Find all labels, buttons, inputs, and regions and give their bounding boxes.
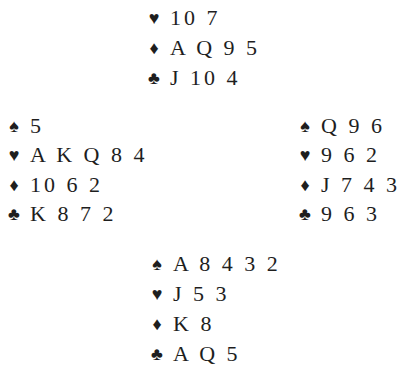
east-clubs-row: ♣ 9 6 3 — [295, 200, 400, 230]
south-diamonds-cards: K 8 — [173, 309, 214, 339]
spade-icon: ♠ — [295, 111, 315, 141]
heart-icon: ♥ — [144, 3, 164, 33]
west-hearts-row: ♥ A K Q 8 4 — [4, 141, 147, 171]
south-hearts-row: ♥ J 5 3 — [147, 279, 281, 309]
west-hand: ♠ 5 ♥ A K Q 8 4 ♦ 10 6 2 ♣ K 8 7 2 — [4, 111, 147, 229]
north-hand: ♥ 10 7 ♦ A Q 9 5 ♣ J 10 4 — [144, 3, 260, 93]
east-diamonds-cards: J 7 4 3 — [321, 170, 400, 200]
south-hand: ♠ A 8 4 3 2 ♥ J 5 3 ♦ K 8 ♣ A Q 5 — [147, 249, 281, 369]
east-hand: ♠ Q 9 6 ♥ 9 6 2 ♦ J 7 4 3 ♣ 9 6 3 — [295, 111, 400, 229]
south-spades-cards: A 8 4 3 2 — [173, 249, 281, 279]
south-hearts-cards: J 5 3 — [173, 279, 230, 309]
east-diamonds-row: ♦ J 7 4 3 — [295, 170, 400, 200]
west-clubs-cards: K 8 7 2 — [30, 199, 116, 229]
club-icon: ♣ — [295, 199, 315, 229]
north-clubs-cards: J 10 4 — [170, 63, 241, 93]
east-hearts-cards: 9 6 2 — [321, 140, 380, 170]
west-hearts-cards: A K Q 8 4 — [30, 140, 147, 170]
club-icon: ♣ — [144, 63, 164, 93]
club-icon: ♣ — [4, 199, 24, 229]
north-hearts-row: ♥ 10 7 — [144, 3, 260, 33]
east-clubs-cards: 9 6 3 — [321, 199, 380, 229]
south-diamonds-row: ♦ K 8 — [147, 309, 281, 339]
west-spades-row: ♠ 5 — [4, 111, 147, 141]
east-hearts-row: ♥ 9 6 2 — [295, 141, 400, 171]
south-spades-row: ♠ A 8 4 3 2 — [147, 249, 281, 279]
north-diamonds-cards: A Q 9 5 — [170, 33, 260, 63]
north-clubs-row: ♣ J 10 4 — [144, 63, 260, 93]
west-diamonds-cards: 10 6 2 — [30, 170, 103, 200]
east-spades-row: ♠ Q 9 6 — [295, 111, 400, 141]
west-diamonds-row: ♦ 10 6 2 — [4, 170, 147, 200]
diamond-icon: ♦ — [295, 170, 315, 200]
north-diamonds-row: ♦ A Q 9 5 — [144, 33, 260, 63]
spade-icon: ♠ — [147, 249, 167, 279]
diamond-icon: ♦ — [147, 309, 167, 339]
club-icon: ♣ — [147, 339, 167, 369]
west-spades-cards: 5 — [30, 111, 44, 141]
heart-icon: ♥ — [147, 279, 167, 309]
spade-icon: ♠ — [4, 111, 24, 141]
west-clubs-row: ♣ K 8 7 2 — [4, 200, 147, 230]
heart-icon: ♥ — [295, 140, 315, 170]
diamond-icon: ♦ — [4, 170, 24, 200]
south-clubs-row: ♣ A Q 5 — [147, 339, 281, 369]
east-spades-cards: Q 9 6 — [321, 111, 385, 141]
north-hearts-cards: 10 7 — [170, 3, 221, 33]
south-clubs-cards: A Q 5 — [173, 339, 241, 369]
heart-icon: ♥ — [4, 140, 24, 170]
diamond-icon: ♦ — [144, 33, 164, 63]
